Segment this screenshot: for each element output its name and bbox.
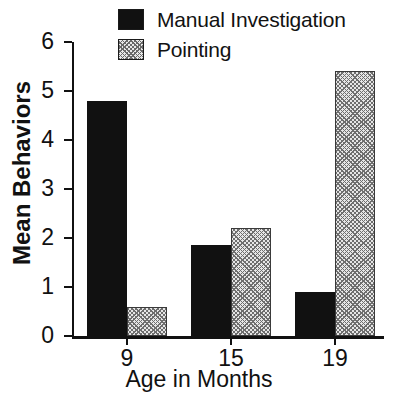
y-tick — [64, 237, 72, 239]
y-tick-label: 4 — [24, 128, 54, 151]
bar-series-container — [72, 42, 384, 336]
bar-manual-investigation-19 — [295, 292, 335, 336]
bar-pointing-15 — [231, 228, 271, 336]
y-tick-label: 0 — [24, 324, 54, 347]
bar-pointing-9 — [127, 307, 167, 336]
bar-pointing-19 — [335, 71, 375, 336]
legend-swatch-solid-black-icon — [118, 9, 144, 30]
y-tick — [64, 286, 72, 288]
legend-label-manual-investigation: Manual Investigation — [157, 9, 346, 30]
y-tick-label: 5 — [24, 79, 54, 102]
bar-manual-investigation-9 — [87, 101, 127, 336]
x-axis-title: Age in Months — [0, 367, 398, 392]
x-axis-line — [72, 336, 384, 339]
y-tick — [64, 41, 72, 43]
legend-item-manual-investigation: Manual Investigation — [118, 4, 346, 34]
y-tick — [64, 90, 72, 92]
y-tick — [64, 188, 72, 190]
bar-manual-investigation-15 — [191, 245, 231, 336]
y-tick-label: 3 — [24, 177, 54, 200]
y-tick — [64, 335, 72, 337]
bar-chart: Manual Investigation Pointing Mean Behav… — [0, 0, 398, 401]
y-tick-label: 2 — [24, 226, 54, 249]
y-tick-label: 6 — [24, 30, 54, 53]
plot-area: 0123456 91519 — [72, 42, 384, 336]
y-tick — [64, 139, 72, 141]
y-tick-label: 1 — [24, 275, 54, 298]
